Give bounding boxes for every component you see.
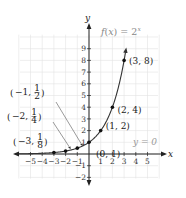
data-point (52, 151, 56, 155)
x-tick-label: 3 (122, 157, 127, 166)
data-point (76, 146, 80, 150)
y-tick-label: −2 (75, 173, 86, 182)
x-tick-label: −5 (25, 157, 36, 166)
y-tick-label: −1 (75, 161, 86, 170)
x-tick-label: −2 (60, 157, 71, 166)
svg-text:2: 2 (34, 91, 40, 101)
svg-text:(: ( (10, 88, 14, 98)
data-point (64, 149, 68, 153)
svg-text:): ) (38, 112, 42, 122)
svg-text:(: ( (13, 137, 17, 147)
function-label: f(x) = 2x (100, 25, 141, 37)
y-tick-label: 4 (81, 103, 86, 112)
point-label: (1, 2) (106, 121, 130, 131)
x-tick-label: −3 (48, 157, 59, 166)
data-point (99, 129, 103, 133)
svg-text:(: ( (7, 112, 11, 122)
leader-line-neg2 (53, 122, 70, 148)
exponential-graph: x y −5−4−3−2−112345−2−1123456789 f(x) = … (0, 0, 186, 198)
point-label: (3, 8) (129, 56, 153, 66)
y-tick-label: 3 (81, 115, 86, 124)
fraction-point-label: (−1,12) (10, 83, 45, 101)
fraction-point-label: (−2,14) (7, 107, 42, 125)
svg-text:−2,: −2, (12, 111, 28, 121)
y-tick-label: 5 (81, 91, 86, 100)
point-label: (0, 1) (96, 149, 120, 159)
x-tick-label: −4 (37, 157, 48, 166)
y-tick-label: 2 (81, 126, 86, 135)
svg-text:): ) (44, 137, 48, 147)
fraction-point-labels: (−3,18)(−2,14)(−1,12) (7, 83, 48, 150)
leader-line-neg1 (56, 102, 82, 145)
data-point (111, 105, 115, 109)
y-tick-label: 8 (81, 56, 86, 65)
svg-text:−3,: −3, (18, 136, 34, 146)
y-axis-label: y (84, 13, 91, 23)
point-label: (2, 4) (117, 105, 141, 115)
x-tick-label: 4 (133, 157, 138, 166)
x-tick-label: 5 (145, 157, 150, 166)
y-tick-label: 7 (81, 68, 86, 77)
x-axis-label: x (168, 149, 173, 159)
data-point (122, 59, 126, 63)
exponential-curve (19, 50, 126, 154)
asymptote-label: y = 0 (132, 137, 157, 147)
data-point (87, 141, 91, 145)
svg-text:4: 4 (31, 115, 37, 125)
y-tick-label: 9 (81, 44, 86, 53)
y-tick-label: 6 (81, 79, 86, 88)
svg-text:−1,: −1, (15, 87, 31, 97)
svg-text:8: 8 (37, 140, 43, 150)
svg-text:): ) (41, 88, 45, 98)
